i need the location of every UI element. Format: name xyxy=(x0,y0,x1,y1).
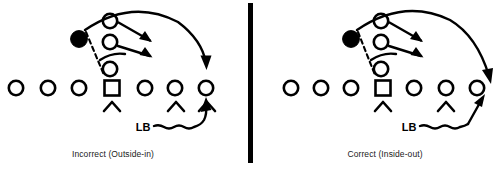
lb-label-left: LB xyxy=(136,121,151,133)
vertical-divider-bar xyxy=(248,3,253,163)
caption-correct: Correct (Inside-out) xyxy=(347,149,422,159)
lb-label-right: LB xyxy=(402,121,417,133)
ballcarrier-filled-circle xyxy=(343,31,360,48)
football-play-diagram: LB Incorrect (Outside-in) xyxy=(0,0,502,177)
caption-incorrect: Incorrect (Outside-in) xyxy=(72,149,154,159)
ballcarrier-filled-circle xyxy=(71,31,88,48)
